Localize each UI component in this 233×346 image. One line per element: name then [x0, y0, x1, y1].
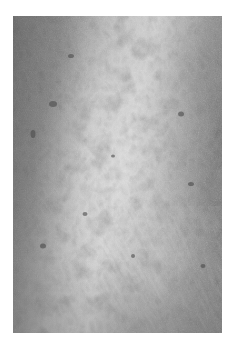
bottom-shade [13, 16, 222, 333]
skin-texture-photo [13, 16, 222, 333]
skin-texture-render [13, 16, 222, 333]
